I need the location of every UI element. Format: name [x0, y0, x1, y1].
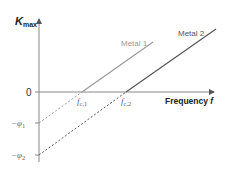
phi2-label: −φ2: [11, 150, 25, 161]
metal1-extrapolation-dashed: [39, 92, 82, 123]
metal1-line: [82, 42, 153, 92]
photoelectric-kmax-diagram: Kmax 0 Frequency f fc,1 fc,2 −φ1 −φ2 Met…: [0, 0, 229, 170]
x-axis-label: Frequency f: [165, 96, 214, 106]
zero-label: 0: [26, 87, 32, 98]
fc2-label: fc,2: [121, 96, 131, 107]
phi1-label: −φ1: [11, 118, 25, 129]
fc1-label: fc,1: [77, 96, 87, 107]
metal2-label: Metal 2: [178, 29, 205, 38]
metal1-label: Metal 1: [121, 39, 148, 48]
y-axis-label: Kmax: [15, 15, 37, 28]
